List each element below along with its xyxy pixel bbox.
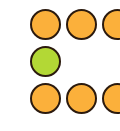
orange-circle-icon — [30, 9, 61, 40]
orange-circle-icon — [102, 83, 120, 114]
orange-circle-icon — [102, 9, 120, 40]
orange-circle-icon — [30, 83, 61, 114]
dot-grid — [0, 0, 120, 131]
green-circle-icon — [30, 46, 61, 77]
orange-circle-icon — [66, 83, 97, 114]
orange-circle-icon — [66, 9, 97, 40]
